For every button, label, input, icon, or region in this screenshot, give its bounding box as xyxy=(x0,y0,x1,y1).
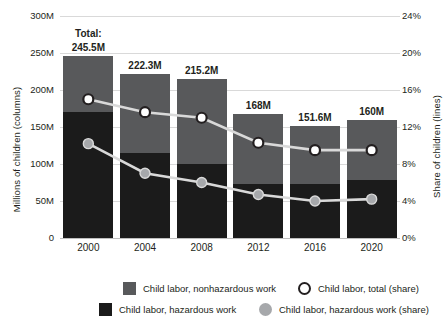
legend-label-hazardous-share: Child labor, hazardous work (share) xyxy=(279,304,429,315)
x-axis-tick-label: 2000 xyxy=(58,242,118,253)
marker-total-share xyxy=(367,145,377,155)
y-axis-left-tick-label: 100M xyxy=(0,158,54,169)
y-axis-left-tick-label: 200M xyxy=(0,84,54,95)
y-axis-left-tick-label: 150M xyxy=(0,121,54,132)
marker-total-share xyxy=(140,107,150,117)
y-axis-right-tick-label: 24% xyxy=(402,10,442,21)
line-path xyxy=(88,144,371,201)
legend-item-total-share: Child labor, total (share) xyxy=(298,282,419,295)
marker-total-share xyxy=(83,94,93,104)
y-axis-left-tick-label: 250M xyxy=(0,47,54,58)
marker-hazardous-share xyxy=(197,178,207,188)
legend-swatch-filled-circle-icon xyxy=(259,303,272,316)
chart-container: Millions of children (columns) Share of … xyxy=(0,0,448,333)
legend-item-hazardous-share: Child labor, hazardous work (share) xyxy=(259,303,429,316)
y-axis-right-tick-label: 12% xyxy=(402,121,442,132)
y-axis-right-tick-label: 0% xyxy=(402,232,442,243)
y-axis-left-tick-label: 300M xyxy=(0,10,54,21)
marker-total-share xyxy=(310,145,320,155)
x-axis-tick-label: 2020 xyxy=(342,242,402,253)
legend-swatch-nonhazardous-icon xyxy=(123,282,136,295)
y-axis-left-tick-label: 0 xyxy=(0,232,54,243)
gridline xyxy=(60,238,400,239)
marker-hazardous-share xyxy=(310,196,320,206)
x-axis-tick-label: 2012 xyxy=(228,242,288,253)
y-axis-right-title: Share of children (lines) xyxy=(431,82,442,212)
x-axis-tick-label: 2008 xyxy=(172,242,232,253)
marker-hazardous-share xyxy=(140,168,150,178)
marker-hazardous-share xyxy=(367,194,377,204)
y-axis-right-tick-label: 4% xyxy=(402,195,442,206)
legend-swatch-hazardous-icon xyxy=(99,303,112,316)
marker-total-share xyxy=(197,113,207,123)
x-axis-tick-label: 2016 xyxy=(285,242,345,253)
y-axis-right-tick-label: 20% xyxy=(402,47,442,58)
line-series xyxy=(60,16,400,238)
marker-hazardous-share xyxy=(83,139,93,149)
legend-label-nonhazardous: Child labor, nonhazardous work xyxy=(143,283,276,294)
y-axis-left-tick-label: 50M xyxy=(0,195,54,206)
legend-swatch-open-circle-icon xyxy=(298,282,311,295)
marker-hazardous-share xyxy=(253,190,263,200)
legend-row-2: Child labor, hazardous work Child labor,… xyxy=(0,299,448,318)
chart-legend: Child labor, nonhazardous work Child lab… xyxy=(0,280,448,318)
y-axis-right-tick-label: 16% xyxy=(402,84,442,95)
legend-item-hazardous: Child labor, hazardous work xyxy=(99,303,236,316)
legend-item-nonhazardous: Child labor, nonhazardous work xyxy=(123,282,276,295)
marker-total-share xyxy=(253,138,263,148)
y-axis-right-tick-label: 8% xyxy=(402,158,442,169)
x-axis-tick-label: 2004 xyxy=(115,242,175,253)
legend-label-total-share: Child labor, total (share) xyxy=(318,283,419,294)
legend-row-1: Child labor, nonhazardous work Child lab… xyxy=(0,280,448,299)
line-path xyxy=(88,99,371,150)
plot-area: 245.5MTotal:222.3M215.2M168M151.6M160M xyxy=(60,16,400,238)
legend-label-hazardous: Child labor, hazardous work xyxy=(119,304,236,315)
